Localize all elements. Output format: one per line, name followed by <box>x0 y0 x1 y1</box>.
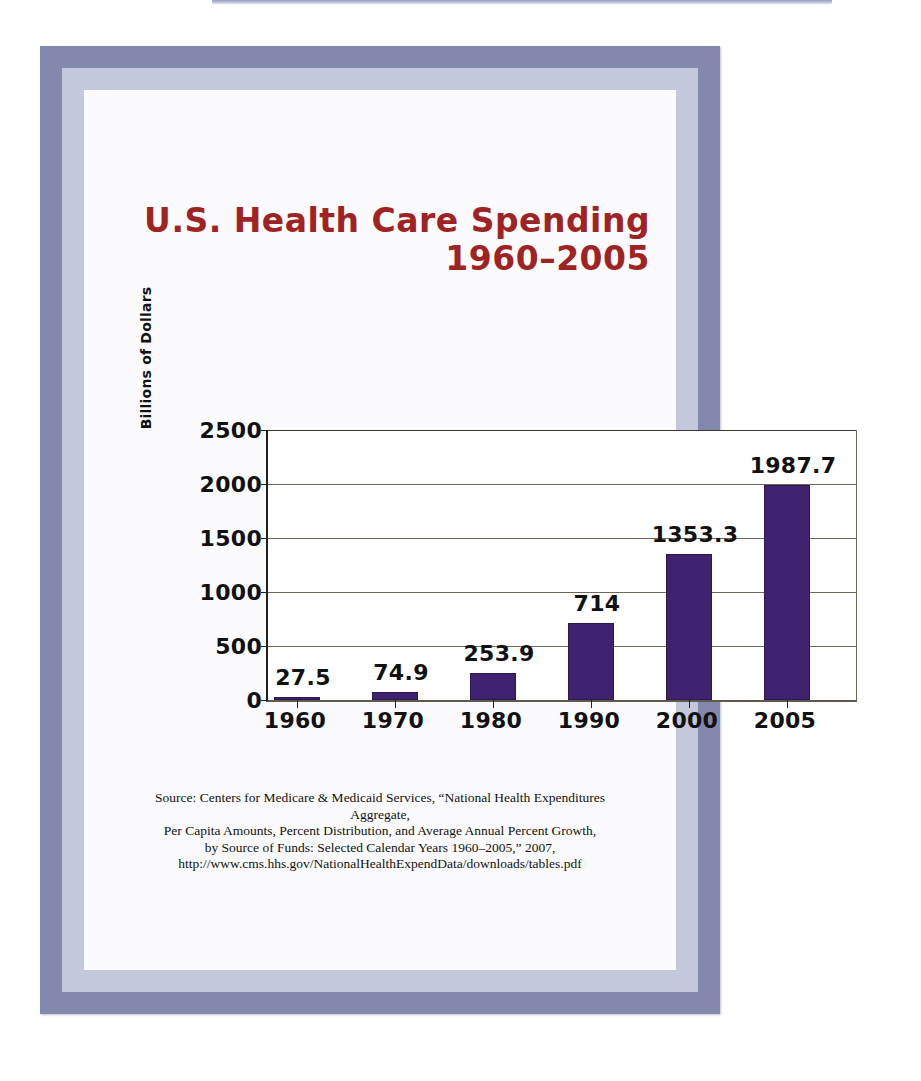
x-axis-tick <box>787 700 788 708</box>
x-axis-category-label: 1990 <box>558 708 620 733</box>
x-axis-category-label: 2000 <box>656 708 718 733</box>
figure-canvas: U.S. Health Care Spending 1960–2005 Bill… <box>84 90 676 970</box>
y-axis-tick <box>261 646 268 647</box>
y-axis-title: Billions of Dollars <box>138 278 154 438</box>
x-axis-tick <box>689 700 690 708</box>
bar <box>372 692 418 700</box>
bar-value-label: 74.9 <box>373 660 428 685</box>
source-citation: Source: Centers for Medicare & Medicaid … <box>124 790 636 873</box>
x-axis-category-label: 1960 <box>264 708 326 733</box>
x-axis-tick <box>395 700 396 708</box>
x-axis-category-label: 2005 <box>754 708 816 733</box>
bar-value-label: 253.9 <box>463 641 534 666</box>
y-axis-tick <box>261 592 268 593</box>
y-axis-tick <box>261 484 268 485</box>
x-axis-tick <box>591 700 592 708</box>
y-axis-tick <box>261 700 268 701</box>
plot-area: 27.574.9253.97141353.31987.7 <box>266 430 857 702</box>
bar-value-label: 1987.7 <box>750 453 837 478</box>
page-top-edge-artifact <box>212 0 832 5</box>
bar <box>666 554 712 700</box>
figure-frame-outer: U.S. Health Care Spending 1960–2005 Bill… <box>40 46 720 1014</box>
y-axis-tick <box>261 430 268 431</box>
bar-value-label: 714 <box>574 591 621 616</box>
bar <box>764 485 810 700</box>
y-axis-tick-label: 0 <box>162 688 262 713</box>
x-axis-tick-labels: 196019701980199020002005 <box>266 708 854 738</box>
bar <box>470 673 516 700</box>
y-axis-tick-label: 500 <box>162 634 262 659</box>
x-axis-tick <box>493 700 494 708</box>
y-axis-tick-label: 1000 <box>162 580 262 605</box>
figure-frame-inner: U.S. Health Care Spending 1960–2005 Bill… <box>62 68 698 992</box>
bar-value-label: 1353.3 <box>652 522 739 547</box>
x-axis-tick <box>297 700 298 708</box>
y-axis-tick-label: 2500 <box>162 418 262 443</box>
bar-value-label: 27.5 <box>275 665 330 690</box>
y-axis-tick-label: 1500 <box>162 526 262 551</box>
gridline <box>268 430 856 431</box>
x-axis-category-label: 1970 <box>362 708 424 733</box>
x-axis-category-label: 1980 <box>460 708 522 733</box>
y-axis-tick <box>261 538 268 539</box>
y-axis-tick-labels: 05001000150020002500 <box>162 430 262 700</box>
y-axis-tick-label: 2000 <box>162 472 262 497</box>
bar <box>568 623 614 700</box>
